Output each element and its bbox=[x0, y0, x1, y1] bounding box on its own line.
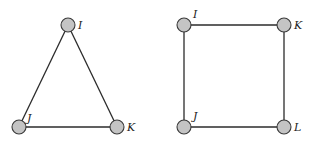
node-l bbox=[277, 120, 291, 134]
node-label-k: K bbox=[126, 121, 136, 134]
edge-i-k bbox=[68, 25, 117, 127]
square-graph: I K J L bbox=[177, 8, 303, 134]
node-label-j: J bbox=[191, 110, 198, 123]
node-j bbox=[177, 120, 191, 134]
graph-canvas: I J K I K J L bbox=[0, 0, 313, 147]
node-k bbox=[110, 120, 124, 134]
node-label-j: J bbox=[25, 112, 32, 125]
node-label-k: K bbox=[293, 19, 303, 32]
node-label-i: I bbox=[77, 19, 83, 32]
node-i bbox=[61, 18, 75, 32]
node-label-l: L bbox=[293, 121, 301, 134]
node-label-i: I bbox=[192, 8, 198, 21]
node-i bbox=[177, 18, 191, 32]
node-j bbox=[12, 120, 26, 134]
node-k bbox=[277, 18, 291, 32]
triangle-graph: I J K bbox=[12, 18, 136, 134]
